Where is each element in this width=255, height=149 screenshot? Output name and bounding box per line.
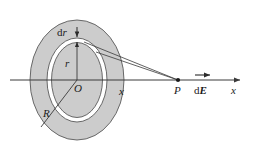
label-field-vector: dE (194, 85, 207, 96)
label-ring-radius: r (65, 58, 69, 69)
label-disc-radius: R (43, 108, 50, 119)
label-center-O: O (74, 83, 82, 94)
diagram-canvas (0, 0, 255, 149)
label-ring-width: dr (57, 27, 67, 38)
label-axis-distance: x (119, 86, 124, 97)
label-axis-name: x (231, 85, 236, 96)
label-field-point: P (174, 85, 181, 96)
physics-diagram-disc-field: dr r O R x P dE x (0, 0, 255, 149)
field-point-dot (176, 78, 180, 82)
